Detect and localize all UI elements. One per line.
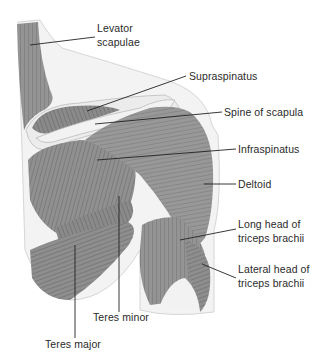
label-line: Supraspinatus bbox=[189, 69, 257, 83]
label-infraspinatus: Infraspinatus bbox=[238, 142, 299, 156]
label-line: triceps brachii bbox=[238, 231, 304, 245]
label-line: Infraspinatus bbox=[238, 142, 299, 156]
anatomy-diagram: Levator scapulae Supraspinatus Spine of … bbox=[0, 0, 328, 361]
label-lateral-head-triceps: Lateral head of triceps brachii bbox=[238, 262, 310, 290]
label-line: Teres major bbox=[45, 337, 101, 351]
label-line: scapulae bbox=[97, 35, 140, 49]
label-teres-major: Teres major bbox=[45, 337, 101, 351]
label-teres-minor: Teres minor bbox=[93, 310, 149, 324]
label-line: Spine of scapula bbox=[224, 105, 303, 119]
label-deltoid: Deltoid bbox=[238, 177, 271, 191]
label-line: Levator bbox=[97, 21, 140, 35]
shoulder-illustration bbox=[0, 0, 328, 361]
label-spine-of-scapula: Spine of scapula bbox=[224, 105, 303, 119]
label-line: Deltoid bbox=[238, 177, 271, 191]
label-supraspinatus: Supraspinatus bbox=[189, 69, 257, 83]
label-line: Lateral head of bbox=[238, 262, 310, 276]
label-line: Long head of bbox=[238, 217, 304, 231]
label-line: Teres minor bbox=[93, 310, 149, 324]
label-long-head-triceps: Long head of triceps brachii bbox=[238, 217, 304, 245]
label-line: triceps brachii bbox=[238, 276, 310, 290]
label-levator-scapulae: Levator scapulae bbox=[97, 21, 140, 49]
